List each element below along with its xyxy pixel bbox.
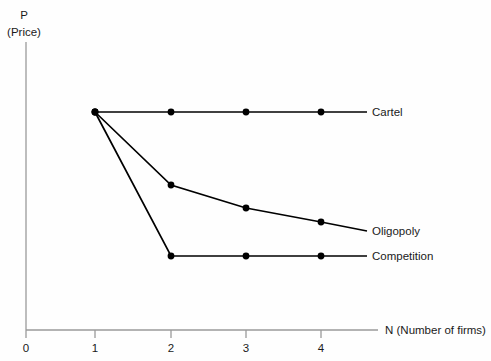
x-tick-label-4: 4 bbox=[318, 342, 325, 354]
x-tick-label-0: 0 bbox=[23, 342, 29, 354]
y-axis-label-line2: (Price) bbox=[7, 26, 41, 38]
data-point-oligopoly-n3 bbox=[243, 205, 250, 212]
x-axis-label: N (Number of firms) bbox=[385, 324, 486, 336]
x-tick-label-2: 2 bbox=[168, 342, 174, 354]
chart-canvas: 0 1 2 3 4 P (Price) N (Number of firms) … bbox=[0, 0, 491, 361]
data-point-cartel-n2 bbox=[168, 109, 175, 116]
x-tick-label-1: 1 bbox=[92, 342, 98, 354]
data-point-competition-n3 bbox=[243, 253, 250, 260]
data-point-competition-n2 bbox=[168, 253, 175, 260]
data-point-competition-n1 bbox=[92, 109, 99, 116]
y-axis-label-line1: P bbox=[20, 9, 28, 21]
data-point-competition-n4 bbox=[318, 253, 325, 260]
x-tick-label-3: 3 bbox=[243, 342, 249, 354]
data-point-cartel-n3 bbox=[243, 109, 250, 116]
series-label-competition: Competition bbox=[372, 250, 433, 262]
economics-price-firms-chart: 0 1 2 3 4 P (Price) N (Number of firms) … bbox=[0, 0, 491, 361]
data-point-oligopoly-n2 bbox=[168, 182, 175, 189]
series-line-oligopoly bbox=[95, 112, 367, 231]
data-point-cartel-n4 bbox=[318, 109, 325, 116]
series-label-oligopoly: Oligopoly bbox=[372, 225, 420, 237]
series-line-competition bbox=[95, 112, 367, 256]
data-point-oligopoly-n4 bbox=[318, 219, 325, 226]
series-label-cartel: Cartel bbox=[372, 106, 403, 118]
